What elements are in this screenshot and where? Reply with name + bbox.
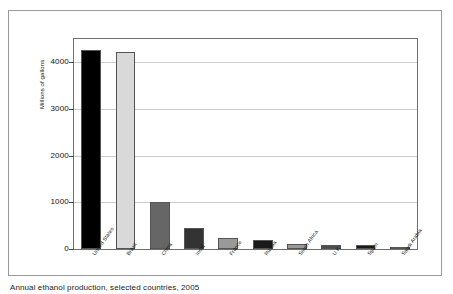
plot-area [73, 38, 418, 250]
y-axis-tick-label: 3000 [50, 104, 69, 113]
y-axis-tick-label: 1000 [50, 197, 69, 206]
y-axis-tick-mark [69, 202, 74, 203]
y-axis-tick-label: 0 [64, 244, 69, 253]
y-axis-tick-mark [69, 109, 74, 110]
y-axis-tick-labels: 01000200030004000 [37, 38, 69, 250]
bar-brazil [116, 52, 136, 249]
figure-caption: Annual ethanol production, selected coun… [10, 283, 199, 292]
figure-frame: Millions of gallons 01000200030004000 Un… [8, 10, 442, 276]
y-axis-tick-label: 4000 [50, 57, 69, 66]
y-axis-tick-mark [69, 156, 74, 157]
y-axis-tick-mark [69, 62, 74, 63]
y-axis-tick-label: 2000 [50, 150, 69, 159]
bar-united-states [81, 50, 101, 249]
